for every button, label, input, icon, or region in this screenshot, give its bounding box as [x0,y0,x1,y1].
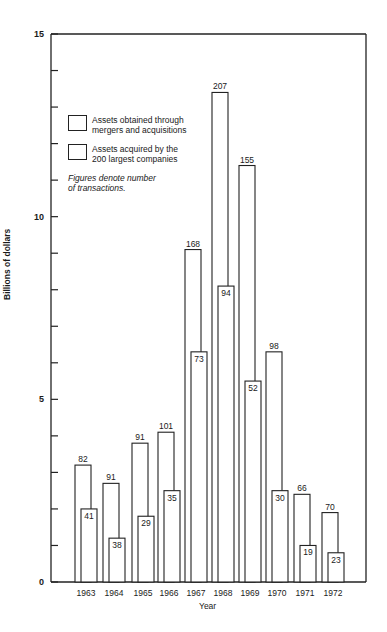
bar-group-1971: 6619 [294,483,316,582]
y-tick-label: 15 [34,29,44,39]
x-axis-label: Year [199,601,216,611]
bar-label-largest-companies: 41 [84,511,94,521]
bar-label-largest-companies: 73 [194,354,204,364]
bar-group-1970: 9830 [266,341,288,582]
x-tick-label: 1964 [105,588,124,598]
bar-largest-companies [245,381,261,582]
bar-chart: 051015 824191389129101351687320794155529… [0,0,387,632]
x-tick-label: 1972 [324,588,343,598]
bar-label-largest-companies: 19 [303,547,313,557]
x-tick-label: 1971 [296,588,315,598]
bar-group-1969: 15552 [239,155,261,582]
bar-group-1972: 7023 [322,502,344,582]
bar-largest-companies [272,491,288,582]
x-tick-label: 1970 [268,588,287,598]
bar-group-1964: 9138 [103,472,125,582]
x-tick-label: 1969 [241,588,260,598]
x-tick-label: 1967 [187,588,206,598]
legend-swatch-outline-icon [68,144,87,160]
bar-largest-companies [218,286,234,582]
bar-label-mergers: 155 [240,155,254,165]
x-tick-label: 1965 [134,588,153,598]
legend-note: Figures denote number of transactions. [68,173,187,193]
bar-largest-companies [191,352,207,582]
bar-group-1963: 8241 [75,454,97,582]
x-tick-label: 1966 [160,588,179,598]
bar-largest-companies [164,491,180,582]
y-tick-label: 0 [39,577,44,587]
bar-group-1967: 16873 [185,239,207,582]
x-tick-label: 1968 [214,588,233,598]
bar-label-largest-companies: 29 [141,518,151,528]
x-axis: 1963196419651966196719681969197019711972 [77,588,343,598]
y-axis-label: Billions of dollars [2,229,12,300]
y-tick-label: 5 [39,394,44,404]
y-tick-label: 10 [34,212,44,222]
x-tick-label: 1963 [77,588,96,598]
bar-label-mergers: 168 [186,239,200,249]
legend-label: Assets obtained through mergers and acqu… [92,115,187,135]
bar-label-largest-companies: 35 [167,493,177,503]
legend-item-mergers: Assets obtained through mergers and acqu… [68,115,187,135]
bar-label-mergers: 70 [325,502,335,512]
y-axis: 051015 [34,29,58,587]
bar-label-largest-companies: 23 [331,555,341,565]
bar-label-largest-companies: 38 [112,540,122,550]
legend-item-largest-companies: Assets acquired by the 200 largest compa… [68,144,187,164]
legend-swatch-outline-icon [68,115,87,131]
bar-label-mergers: 91 [135,432,145,442]
bar-label-mergers: 82 [78,454,88,464]
bar-label-largest-companies: 30 [275,493,285,503]
bar-label-mergers: 66 [297,483,307,493]
bar-label-mergers: 207 [213,81,227,91]
bar-group-1966: 10135 [158,421,180,582]
bar-group-1965: 9129 [132,432,154,582]
bar-label-mergers: 98 [269,341,279,351]
bar-group-1968: 20794 [212,81,234,582]
bar-label-largest-companies: 94 [221,288,231,298]
legend: Assets obtained through mergers and acqu… [68,115,187,193]
bar-label-mergers: 91 [106,472,116,482]
bar-label-largest-companies: 52 [248,383,258,393]
bar-label-mergers: 101 [159,421,173,431]
legend-label: Assets acquired by the 200 largest compa… [92,144,178,164]
